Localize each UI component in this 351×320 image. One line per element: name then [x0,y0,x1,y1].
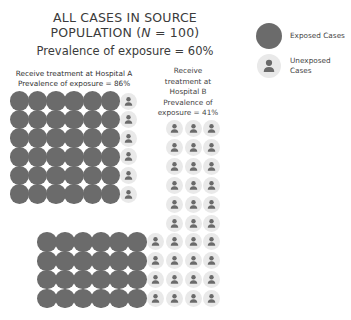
unexposed-case-icon [185,252,202,269]
unexposed-case-icon [203,252,220,269]
exposed-case-icon [91,289,111,309]
unexposed-case-icon [147,271,164,288]
unexposed-case-icon [185,177,202,194]
exposed-case-icon [64,110,84,130]
unexposed-case-icon [166,215,183,232]
exposed-case-icon [101,91,121,111]
unexposed-case-icon [185,158,202,175]
exposed-case-icon [28,147,48,167]
exposed-case-icon [64,128,84,148]
exposed-case-icon [46,147,66,167]
exposed-case-icon [64,91,84,111]
unexposed-case-icon [185,196,202,213]
exposed-case-icon [83,91,103,111]
unexposed-case-icon [166,233,183,250]
exposed-case-icon [10,166,30,186]
exposed-case-icon [64,184,84,204]
exposed-case-icon [127,251,147,271]
unexposed-case-icon [203,177,220,194]
unexposed-case-icon [185,139,202,156]
unexposed-case-icon [147,252,164,269]
unexposed-case-icon [257,54,281,78]
unexposed-case-icon [120,93,137,110]
exposed-case-icon [109,270,129,290]
exposed-case-icon [55,251,75,271]
exposed-case-icon [64,166,84,186]
unexposed-case-icon [166,158,183,175]
unexposed-case-icon [203,120,220,137]
exposed-case-icon [10,110,30,130]
exposed-case-icon [37,232,57,252]
unexposed-case-icon [185,290,202,307]
exposed-case-icon [73,270,93,290]
hospital-a-label: Receive treatment at Hospital A Prevalen… [4,69,144,89]
unexposed-case-icon [120,167,137,184]
unexposed-case-icon [120,148,137,165]
exposed-case-icon [73,251,93,271]
exposed-case-icon [28,128,48,148]
exposed-case-icon [127,270,147,290]
exposed-case-icon [55,289,75,309]
exposed-case-icon [101,147,121,167]
exposed-case-icon [109,289,129,309]
exposed-case-icon [109,232,129,252]
exposed-case-icon [46,166,66,186]
title-line-2: POPULATION (N = 100) [40,25,210,40]
exposed-case-icon [91,251,111,271]
hospital-b-label: Receive treatment at Hospital B Prevalen… [150,66,226,119]
unexposed-case-icon [185,233,202,250]
overall-prevalence: Prevalence of exposure = 60% [20,44,230,58]
exposed-case-icon [64,147,84,167]
unexposed-case-icon [147,233,164,250]
unexposed-case-icon [166,271,183,288]
unexposed-case-icon [120,111,137,128]
exposed-case-icon [46,91,66,111]
exposed-case-icon [28,184,48,204]
exposed-case-icon [37,289,57,309]
exposed-case-icon [55,270,75,290]
exposed-case-icon [83,147,103,167]
unexposed-case-icon [166,120,183,137]
unexposed-case-icon [166,139,183,156]
unexposed-case-icon [185,215,202,232]
unexposed-case-icon [203,158,220,175]
exposed-case-icon [101,184,121,204]
exposed-case-icon [83,184,103,204]
unexposed-case-icon [120,186,137,203]
unexposed-case-icon [166,177,183,194]
exposed-case-icon [127,232,147,252]
exposed-case-icon [37,251,57,271]
unexposed-case-icon [203,233,220,250]
exposed-case-icon [10,128,30,148]
unexposed-case-icon [185,271,202,288]
exposed-case-icon [28,91,48,111]
exposed-case-icon [55,232,75,252]
unexposed-case-icon [203,290,220,307]
unexposed-case-icon [203,196,220,213]
unexposed-case-icon [166,290,183,307]
unexposed-case-icon [203,271,220,288]
exposed-case-icon [83,128,103,148]
chart-title: ALL CASES IN SOURCE POPULATION (N = 100) [40,10,210,40]
exposed-case-icon [73,232,93,252]
legend-unexposed: Unexposed Cases [256,53,331,79]
unexposed-case-icon [147,290,164,307]
unexposed-case-icon [203,215,220,232]
title-line-1: ALL CASES IN SOURCE [40,10,210,25]
exposed-case-icon [83,166,103,186]
exposed-case-icon [28,166,48,186]
unexposed-case-icon [120,130,137,147]
exposed-case-icon [46,184,66,204]
exposed-case-icon [101,128,121,148]
legend-exposed: Exposed Cases [256,23,345,49]
exposed-case-icon [256,23,282,49]
exposed-case-icon [127,289,147,309]
unexposed-case-icon [203,139,220,156]
exposed-case-icon [109,251,129,271]
unexposed-case-icon [166,252,183,269]
exposed-case-icon [83,110,103,130]
exposed-case-icon [10,184,30,204]
exposed-case-icon [28,110,48,130]
exposed-case-icon [46,110,66,130]
exposed-case-icon [73,289,93,309]
